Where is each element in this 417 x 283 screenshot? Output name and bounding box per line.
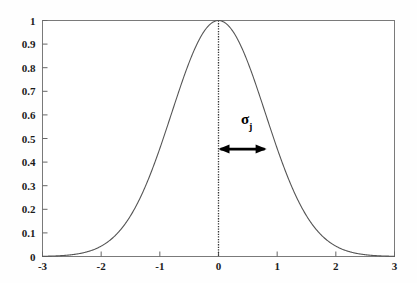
sigma-subscript: j	[249, 121, 252, 132]
x-tick-label: -2	[97, 261, 106, 272]
sigma-label: σj	[241, 112, 253, 130]
y-tick-label: 0.2	[0, 204, 36, 215]
y-tick-label: 0.6	[0, 109, 36, 120]
y-tick-label: 0.3	[0, 180, 36, 191]
gaussian-plot-figure: σj 00.10.20.30.40.50.60.70.80.91 -3-2-10…	[0, 0, 417, 283]
plot-canvas	[0, 0, 417, 283]
sigma-glyph: σ	[241, 111, 249, 127]
x-tick-label: 1	[274, 261, 280, 272]
y-tick-label: 0.4	[0, 157, 36, 168]
y-tick-label: 0.5	[0, 133, 36, 144]
x-tick-label: -3	[38, 261, 47, 272]
x-tick-label: 2	[333, 261, 339, 272]
y-tick-label: 1	[0, 15, 36, 26]
y-tick-label: 0.9	[0, 39, 36, 50]
y-tick-label: 0.1	[0, 227, 36, 238]
x-tick-label: 3	[392, 261, 398, 272]
y-tick-label: 0.8	[0, 62, 36, 73]
x-tick-label: -1	[155, 261, 164, 272]
x-tick-label: 0	[216, 261, 222, 272]
y-tick-label: 0.7	[0, 86, 36, 97]
y-tick-label: 0	[0, 251, 36, 262]
